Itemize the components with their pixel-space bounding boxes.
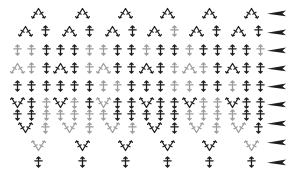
row-direction-arrow-icon (267, 10, 286, 17)
row-direction-arrow-icon (267, 139, 286, 146)
row-arrow-column (0, 0, 288, 184)
row-direction-arrow-icon (267, 120, 286, 127)
row-direction-arrow-icon (267, 83, 286, 90)
crochet-chart (0, 0, 288, 184)
row-direction-arrow-icon (267, 47, 286, 54)
row-direction-arrow-icon (267, 101, 286, 108)
row-direction-arrow-icon (267, 29, 286, 36)
row-direction-arrow-icon (267, 159, 286, 166)
row-direction-arrow-icon (267, 65, 286, 72)
